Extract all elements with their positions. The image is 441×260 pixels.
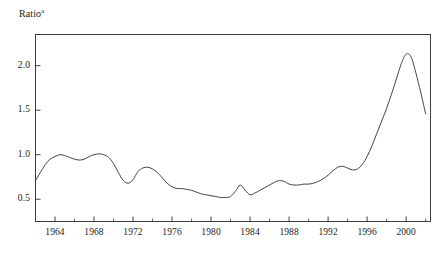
x-axis-tick-label: 1980 <box>191 227 231 237</box>
x-axis-tick-label: 1984 <box>230 227 270 237</box>
x-axis-tick-label: 1972 <box>113 227 153 237</box>
y-axis-title-superscript: a <box>41 7 44 14</box>
x-axis-tick-label: 1964 <box>35 227 75 237</box>
y-axis-tick-label: 1.0 <box>4 149 30 159</box>
y-axis-title: Ratioa <box>19 8 44 19</box>
plot-frame <box>36 35 431 222</box>
x-axis-tick-label: 1988 <box>269 227 309 237</box>
y-axis-tick-label: 0.5 <box>4 193 30 203</box>
x-axis-tick-label: 1996 <box>347 227 387 237</box>
x-axis-tick-label: 1992 <box>308 227 348 237</box>
y-axis-tick-label: 2.0 <box>4 60 30 70</box>
y-axis-title-text: Ratio <box>19 8 41 19</box>
chart-figure: Ratioa 0.51.01.52.0 19641968197219761980… <box>0 0 441 260</box>
x-axis-tick-label: 1968 <box>74 227 114 237</box>
y-axis-tick-label: 1.5 <box>4 104 30 114</box>
x-axis-tick-label: 2000 <box>386 227 426 237</box>
data-series-line <box>36 54 426 198</box>
x-axis-tick-label: 1976 <box>152 227 192 237</box>
plot-area <box>0 0 441 260</box>
